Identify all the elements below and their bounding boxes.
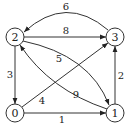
edge-weight-label: 3 — [7, 69, 13, 80]
edge-weight-label: 8 — [63, 25, 69, 36]
node-0: 0 — [6, 104, 24, 122]
edge-0-to-3: 4 — [22, 43, 108, 107]
node-3: 3 — [106, 28, 124, 46]
node-2: 2 — [6, 28, 24, 46]
edge-weight-label: 1 — [59, 114, 65, 125]
edge-0-to-1: 1 — [24, 113, 106, 125]
directed-graph: 6 8 3 5 9 4 1 2 0 1 — [0, 0, 126, 131]
edge-weight-label: 9 — [73, 89, 79, 100]
node-label: 1 — [112, 107, 119, 120]
node-label: 0 — [12, 107, 19, 120]
edge-weight-label: 5 — [56, 53, 62, 64]
edge-weight-label: 6 — [63, 1, 69, 12]
node-label: 3 — [112, 31, 119, 44]
edge-2-to-3: 8 — [24, 25, 106, 38]
node-label: 2 — [12, 31, 19, 44]
edge-weight-label: 2 — [118, 70, 124, 81]
edge-weight-label: 4 — [39, 95, 45, 106]
node-1: 1 — [106, 104, 124, 122]
edge-2-to-0: 3 — [7, 46, 15, 104]
edge-1-to-3: 2 — [115, 46, 124, 104]
edge-2-to-1: 5 — [23, 41, 109, 105]
